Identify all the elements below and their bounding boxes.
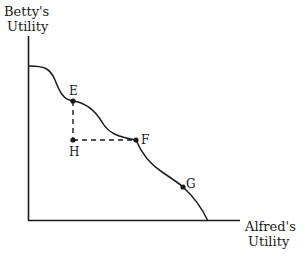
x-axis-label-line2: Utility	[248, 234, 290, 249]
point-h-dot	[70, 137, 75, 142]
y-axis-label-line1: Betty's	[4, 4, 49, 19]
x-axis-label-line1: Alfred's	[244, 219, 296, 234]
point-h-label: H	[69, 145, 79, 159]
utility-possibility-diagram: Betty's Utility Alfred's Utility E H F G	[0, 0, 305, 263]
y-axis-label-line2: Utility	[7, 19, 49, 34]
point-e-label: E	[69, 84, 78, 98]
utility-frontier-curve	[29, 66, 208, 221]
point-g-dot	[180, 184, 185, 189]
point-f-dot	[133, 137, 138, 142]
point-f-label: F	[141, 133, 149, 147]
point-g-label: G	[186, 177, 196, 191]
point-e-dot	[70, 98, 75, 103]
